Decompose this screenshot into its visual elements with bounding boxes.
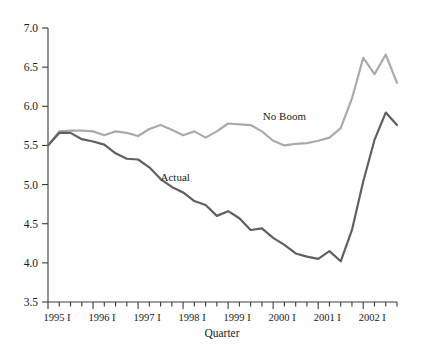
- x-tick-label: 2001 I: [314, 312, 342, 323]
- y-tick-group: 3.54.04.55.05.56.06.57.0: [24, 22, 48, 308]
- x-tick-label: 1997 I: [134, 312, 162, 323]
- x-tick-label: 2000 I: [269, 312, 297, 323]
- line-chart: 3.54.04.55.05.56.06.57.0 1995 I1996 I199…: [0, 0, 428, 355]
- x-axis: 1995 I1996 I1997 I1998 I1999 I2000 I2001…: [43, 302, 397, 323]
- y-tick-label: 5.5: [24, 139, 39, 151]
- x-tick-label: 2002 I: [359, 312, 387, 323]
- x-tick-label: 1996 I: [88, 312, 116, 323]
- y-tick-label: 7.0: [24, 22, 39, 34]
- y-tick-label: 4.0: [24, 257, 39, 269]
- y-tick-label: 4.5: [24, 218, 39, 230]
- series-label-actual: Actual: [161, 171, 190, 183]
- y-tick-label: 3.5: [24, 296, 39, 308]
- x-tick-label: 1999 I: [224, 312, 252, 323]
- data-series-group: [48, 55, 397, 262]
- x-axis-title: Quarter: [204, 327, 239, 339]
- x-tick-label: 1998 I: [179, 312, 207, 323]
- y-tick-label: 6.5: [24, 61, 39, 73]
- y-tick-label: 6.0: [24, 100, 39, 112]
- y-tick-label: 5.0: [24, 179, 39, 191]
- y-axis: 3.54.04.55.05.56.06.57.0: [24, 22, 48, 308]
- series-label-no-boom: No Boom: [263, 110, 307, 122]
- x-tick-group: 1995 I1996 I1997 I1998 I1999 I2000 I2001…: [43, 302, 397, 323]
- series-line-no-boom: [48, 55, 397, 146]
- x-tick-label: 1995 I: [43, 312, 71, 323]
- chart-container: 3.54.04.55.05.56.06.57.0 1995 I1996 I199…: [0, 0, 428, 355]
